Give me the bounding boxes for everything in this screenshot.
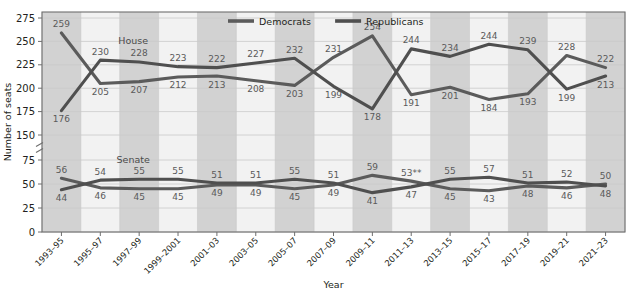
value-label: 57 bbox=[483, 164, 494, 174]
value-label: 52 bbox=[561, 169, 572, 179]
value-label: 41 bbox=[367, 196, 378, 206]
value-label: 48 bbox=[600, 189, 612, 199]
y-axis-ticks: 0255075150175200225250275 bbox=[16, 13, 42, 238]
value-label: 45 bbox=[133, 192, 144, 202]
value-label: 49 bbox=[250, 188, 262, 198]
panel-label-house: House bbox=[118, 35, 148, 46]
x-tick-label: 2019–21 bbox=[538, 235, 571, 268]
value-label: 201 bbox=[442, 91, 459, 101]
value-label: 56 bbox=[56, 165, 68, 175]
value-label: 55 bbox=[172, 166, 183, 176]
x-tick-label: 2007–09 bbox=[305, 235, 338, 268]
x-tick-label: 2005–07 bbox=[266, 235, 299, 268]
x-tick-label: 1999–2001 bbox=[142, 235, 183, 276]
value-label: 234 bbox=[442, 43, 459, 53]
legend-label-republicans: Republicans bbox=[366, 16, 423, 27]
year-band bbox=[197, 12, 236, 232]
value-label: 51 bbox=[522, 170, 533, 180]
value-label: 232 bbox=[286, 45, 303, 55]
value-label: 45 bbox=[289, 192, 300, 202]
value-label: 228 bbox=[131, 48, 148, 58]
y-tick-label: 75 bbox=[22, 155, 35, 166]
value-label: 228 bbox=[558, 42, 575, 52]
seats-by-party-line-chart: 0255075150175200225250275 1993–951995–97… bbox=[0, 0, 643, 294]
x-tick-label: 1995–97 bbox=[72, 235, 105, 268]
value-label: 259 bbox=[53, 19, 70, 29]
value-label: 239 bbox=[519, 36, 536, 46]
legend-label-democrats: Democrats bbox=[259, 16, 311, 27]
value-label: 212 bbox=[169, 80, 186, 90]
value-label: 55 bbox=[133, 166, 144, 176]
value-label: 199 bbox=[558, 93, 575, 103]
y-tick-label: 250 bbox=[16, 36, 35, 47]
y-tick-label: 175 bbox=[16, 106, 35, 117]
value-label: 48 bbox=[522, 189, 534, 199]
value-label: 208 bbox=[247, 84, 264, 94]
x-axis-title: Year bbox=[322, 279, 343, 290]
value-label: 207 bbox=[131, 85, 148, 95]
value-label: 44 bbox=[56, 193, 68, 203]
value-label: 49 bbox=[211, 188, 223, 198]
value-label: 45 bbox=[444, 192, 455, 202]
value-label: 45 bbox=[172, 192, 183, 202]
value-label: 49 bbox=[328, 188, 340, 198]
x-tick-label: 2011–13 bbox=[383, 235, 416, 268]
value-label: 54 bbox=[95, 167, 107, 177]
x-tick-label: 1997–99 bbox=[111, 235, 144, 268]
value-label: 205 bbox=[92, 87, 109, 97]
value-label: 223 bbox=[169, 53, 186, 63]
value-label: 50 bbox=[600, 171, 612, 181]
value-label: 230 bbox=[92, 47, 109, 57]
value-label: 222 bbox=[597, 54, 614, 64]
value-label: 231 bbox=[325, 44, 342, 54]
value-label: 213 bbox=[208, 80, 225, 90]
x-tick-label: 2021–23 bbox=[577, 235, 610, 268]
value-label: 184 bbox=[480, 103, 497, 113]
x-tick-label: 2001–03 bbox=[188, 235, 221, 268]
y-tick-label: 0 bbox=[29, 227, 35, 238]
chart-container: 0255075150175200225250275 1993–951995–97… bbox=[0, 0, 643, 294]
value-label: 244 bbox=[403, 35, 420, 45]
value-label: 51 bbox=[211, 170, 222, 180]
x-tick-label: 2013–15 bbox=[421, 235, 454, 268]
y-tick-label: 200 bbox=[16, 83, 35, 94]
value-label: 227 bbox=[247, 49, 264, 59]
x-axis-ticks: 1993–951995–971997–991999–20012001–03200… bbox=[33, 232, 610, 276]
value-label: 47 bbox=[406, 190, 417, 200]
value-label: 43 bbox=[483, 194, 494, 204]
x-tick-label: 1993–95 bbox=[33, 235, 66, 268]
y-tick-label: 50 bbox=[22, 179, 35, 190]
value-label: 51 bbox=[250, 170, 261, 180]
y-axis-title: Number of seats bbox=[2, 83, 13, 162]
value-label: 59 bbox=[367, 162, 379, 172]
x-tick-label: 2015–17 bbox=[460, 235, 493, 268]
y-tick-label: 25 bbox=[22, 203, 35, 214]
value-label: 178 bbox=[364, 112, 381, 122]
value-label: 46 bbox=[95, 191, 107, 201]
panel-label-senate: Senate bbox=[117, 154, 150, 165]
y-tick-label: 150 bbox=[16, 130, 35, 141]
value-label: 222 bbox=[208, 54, 225, 64]
value-label: 199 bbox=[325, 90, 342, 100]
x-tick-label: 2003–05 bbox=[227, 235, 260, 268]
value-label: 46 bbox=[561, 191, 573, 201]
y-tick-label: 225 bbox=[16, 59, 35, 70]
value-label: 51 bbox=[328, 170, 339, 180]
value-label: 213 bbox=[597, 80, 614, 90]
x-tick-label: 2009–11 bbox=[344, 235, 377, 268]
value-label: 55 bbox=[444, 166, 455, 176]
value-label: 191 bbox=[403, 98, 420, 108]
value-label: 203 bbox=[286, 89, 303, 99]
x-tick-label: 2017–19 bbox=[499, 235, 532, 268]
value-label: 244 bbox=[480, 31, 497, 41]
value-label: 176 bbox=[53, 114, 70, 124]
y-tick-label: 275 bbox=[16, 13, 35, 24]
value-label: 193 bbox=[519, 97, 536, 107]
value-label: 55 bbox=[289, 166, 300, 176]
value-label: 53** bbox=[401, 168, 422, 178]
